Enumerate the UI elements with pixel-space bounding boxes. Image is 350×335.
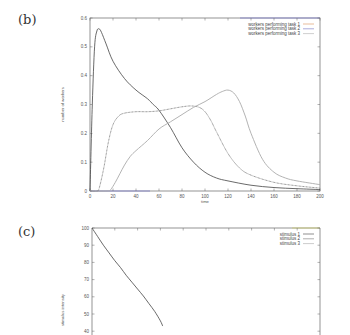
series-line-task-1: [90, 29, 320, 191]
x-tick-label-b: 200: [316, 194, 324, 199]
series-line-task-3: [90, 90, 320, 191]
y-axis-label-b: number of workers: [60, 87, 65, 122]
y-axis-label-c: stimulus intensity: [60, 293, 65, 326]
x-tick-label-b: 180: [293, 194, 301, 199]
y-tick-label-b: 0.1: [81, 160, 88, 165]
y-tick-label-c: 70: [84, 277, 90, 282]
y-tick-label-c: 40: [84, 329, 90, 334]
y-tick-label-b: 0.6: [81, 16, 88, 21]
x-tick-label-b: 120: [224, 194, 232, 199]
x-tick-label-b: 80: [179, 194, 185, 199]
y-tick-label-c: 60: [84, 294, 90, 299]
x-tick-label-b: 40: [133, 194, 139, 199]
chart-workers: 00.10.20.30.40.50.6020406080100120140160…: [0, 0, 350, 335]
y-tick-label-c: 100: [81, 226, 89, 231]
x-tick-label-b: 60: [156, 194, 162, 199]
y-tick-label-b: 0.5: [81, 44, 88, 49]
y-tick-label-b: 0.3: [81, 102, 88, 107]
y-tick-label-c: 50: [84, 312, 90, 317]
y-tick-label-c: 80: [84, 260, 90, 265]
y-tick-label-b: 0: [84, 189, 87, 194]
series-line-stimulus-1: [92, 228, 163, 326]
x-tick-label-b: 20: [110, 194, 116, 199]
y-tick-label-b: 0.4: [81, 73, 88, 78]
x-tick-label-b: 160: [270, 194, 278, 199]
y-tick-label-b: 0.2: [81, 131, 88, 136]
x-tick-label-b: 140: [247, 194, 255, 199]
x-tick-label-b: 0: [89, 194, 92, 199]
y-tick-label-c: 90: [84, 243, 90, 248]
legend-label-stimulus-3: stimulus 3: [280, 241, 301, 246]
legend-label-task-3: workers performing task 3: [248, 31, 300, 36]
x-axis-label-b: time: [201, 199, 210, 204]
